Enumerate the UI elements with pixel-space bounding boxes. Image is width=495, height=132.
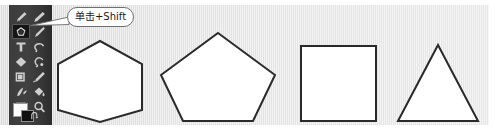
callout-box: 单击+Shift <box>67 7 134 27</box>
tool-bucket[interactable] <box>30 84 48 99</box>
tool-stamp[interactable] <box>30 54 48 69</box>
tool-crop[interactable] <box>12 69 30 84</box>
callout-label: 单击+Shift <box>75 12 126 22</box>
tool-gradient[interactable] <box>12 54 30 69</box>
tool-blur[interactable] <box>12 84 30 99</box>
tool-type[interactable] <box>12 39 30 54</box>
tool-shape[interactable] <box>12 24 30 39</box>
reset-colors-icon[interactable] <box>30 112 39 121</box>
callout-pointer <box>29 15 69 29</box>
tool-brush[interactable] <box>12 9 30 24</box>
tool-paintbrush[interactable] <box>30 69 48 84</box>
callout-balloon: 单击+Shift <box>67 7 134 27</box>
tool-lasso[interactable] <box>30 39 48 54</box>
screenshot-root: 单击+Shift <box>0 0 495 132</box>
